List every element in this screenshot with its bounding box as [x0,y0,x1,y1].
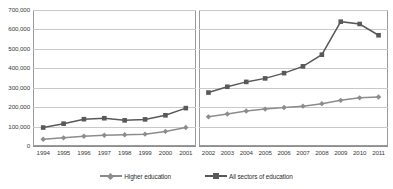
series-line [208,97,378,117]
x-tick-label: 2004 [240,149,253,157]
data-point-marker [262,106,267,111]
x-tick-label: 2006 [277,149,290,157]
data-point-marker [263,76,268,81]
chart-legend: Higher educationAll sectors of education [0,170,393,182]
chart-container: 700,000600,000500,000400,000300,000200,0… [0,0,393,189]
data-point-marker [122,132,127,137]
data-point-marker [81,134,86,139]
x-tick-label: 2007 [296,149,309,157]
y-tick-label: 600,000 [8,26,30,32]
x-tick-label: 2010 [353,149,366,157]
data-point-marker [163,129,168,134]
data-point-marker [206,90,211,95]
panel-right-plot [199,10,388,146]
data-point-marker [143,117,148,122]
y-tick-label: 300,000 [8,85,30,91]
y-tick-label: 400,000 [8,65,30,71]
chart-panel-right [199,10,388,146]
x-tick-label: 2003 [221,149,234,157]
data-point-marker [300,103,305,108]
x-tick-label: 2005 [259,149,272,157]
data-point-marker [142,131,147,136]
legend-marker-icon [205,172,227,180]
x-axis-left: 19941995199619971998199920002001 [33,149,196,161]
data-point-marker [338,19,343,24]
data-point-marker [225,84,230,89]
legend-label: Higher education [124,173,171,180]
data-point-marker [225,111,230,116]
x-tick-label: 1998 [118,149,131,157]
data-point-marker [357,95,362,100]
x-tick-label: 1999 [138,149,151,157]
x-tick-label: 2000 [159,149,172,157]
x-tick-label: 1995 [57,149,70,157]
y-tick-label: 100,000 [8,124,30,130]
data-point-marker [122,118,127,123]
series-line [208,22,378,93]
x-axis-right: 2002200320042005200620072008200920102011 [199,149,388,161]
data-point-marker [61,135,66,140]
y-axis: 700,000600,000500,000400,000300,000200,0… [0,0,30,160]
legend-item[interactable]: All sectors of education [205,172,293,180]
panel-left-plot [33,10,196,146]
data-point-marker [184,106,189,111]
x-tick-label: 2009 [334,149,347,157]
data-point-marker [61,121,66,126]
data-point-marker [282,71,287,76]
data-point-marker [357,22,362,27]
data-point-marker [163,113,168,118]
gridline [33,146,196,147]
legend-item[interactable]: Higher education [100,172,171,180]
data-point-marker [281,105,286,110]
gridline [199,146,388,147]
chart-panel-left [33,10,196,146]
x-tick-label: 2001 [179,149,192,157]
data-point-marker [338,98,343,103]
legend-marker-icon [100,172,122,180]
data-point-marker [183,125,188,130]
data-point-marker [244,80,249,85]
data-point-marker [82,117,87,122]
y-tick-label: 0 [27,143,30,149]
y-tick-label: 500,000 [8,46,30,52]
x-tick-label: 2002 [202,149,215,157]
y-tick-label: 700,000 [8,7,30,13]
x-tick-label: 2011 [372,149,385,157]
data-point-marker [376,33,381,38]
legend-label: All sectors of education [229,173,293,180]
data-point-marker [206,114,211,119]
data-point-marker [102,133,107,138]
data-point-marker [301,64,306,69]
x-tick-label: 1994 [37,149,50,157]
data-point-marker [319,101,324,106]
x-tick-label: 1996 [77,149,90,157]
data-point-marker [376,94,381,99]
x-tick-label: 2008 [315,149,328,157]
x-tick-label: 1997 [98,149,111,157]
y-tick-label: 200,000 [8,104,30,110]
data-point-marker [41,125,46,130]
data-point-marker [320,52,325,57]
data-point-marker [244,108,249,113]
data-point-marker [102,116,107,121]
data-point-marker [41,137,46,142]
